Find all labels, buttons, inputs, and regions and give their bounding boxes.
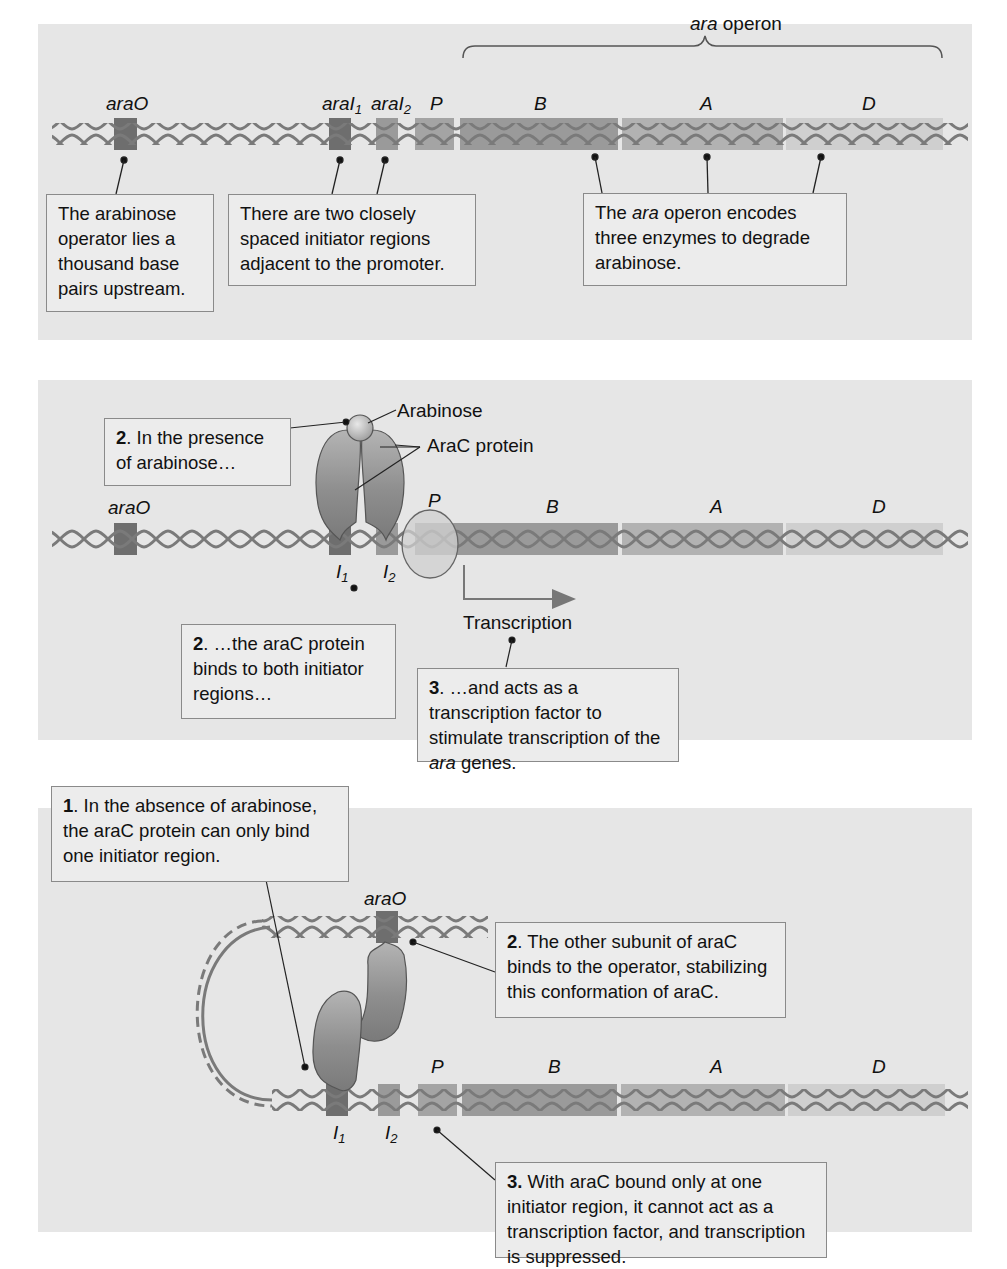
label-gene-a: A <box>700 94 713 113</box>
callout-initiators: There are two closely spaced initiator r… <box>228 194 476 286</box>
label-gene-b: B <box>546 497 559 516</box>
label-promoter: P <box>431 1057 444 1076</box>
callout-arabinose-absence: 1. In the absence of arabinose, the araC… <box>51 786 349 882</box>
callout-transcription-suppressed: 3. With araC bound only at one initiator… <box>495 1162 827 1258</box>
label-arai1: araI1 <box>322 94 362 116</box>
label-i1: I1 <box>333 1123 346 1145</box>
label-arao: araO <box>106 94 148 113</box>
callout-operator-binding: 2. The other subunit of araC binds to th… <box>495 922 786 1018</box>
callout-stimulates-transcription: 3. …and acts as a transcription factor t… <box>417 668 679 762</box>
label-arai2: araI2 <box>371 94 411 116</box>
label-promoter: P <box>428 491 441 510</box>
label-gene-b: B <box>534 94 547 113</box>
operon-brace-label: ara operon <box>690 14 782 33</box>
label-promoter: P <box>430 94 443 113</box>
label-arao: araO <box>364 889 406 908</box>
label-i1: I1 <box>336 562 349 584</box>
label-i2: I2 <box>385 1123 398 1145</box>
label-transcription: Transcription <box>463 613 572 632</box>
label-gene-d: D <box>872 497 886 516</box>
label-arac-protein: AraC protein <box>427 436 534 455</box>
callout-operon-enzymes: The ara operon encodes three enzymes to … <box>583 193 847 286</box>
label-arabinose: Arabinose <box>397 401 483 420</box>
label-arao: araO <box>108 498 150 517</box>
callout-binds-both-initiators: 2. …the araC protein binds to both initi… <box>181 624 396 719</box>
label-gene-d: D <box>872 1057 886 1076</box>
label-gene-b: B <box>548 1057 561 1076</box>
label-gene-a: A <box>710 497 723 516</box>
callout-operator: The arabinose operator lies a thousand b… <box>46 194 214 312</box>
callout-arabinose-presence: 2. In the presence of arabinose… <box>104 418 291 486</box>
label-gene-d: D <box>862 94 876 113</box>
label-gene-a: A <box>710 1057 723 1076</box>
label-i2: I2 <box>383 562 396 584</box>
